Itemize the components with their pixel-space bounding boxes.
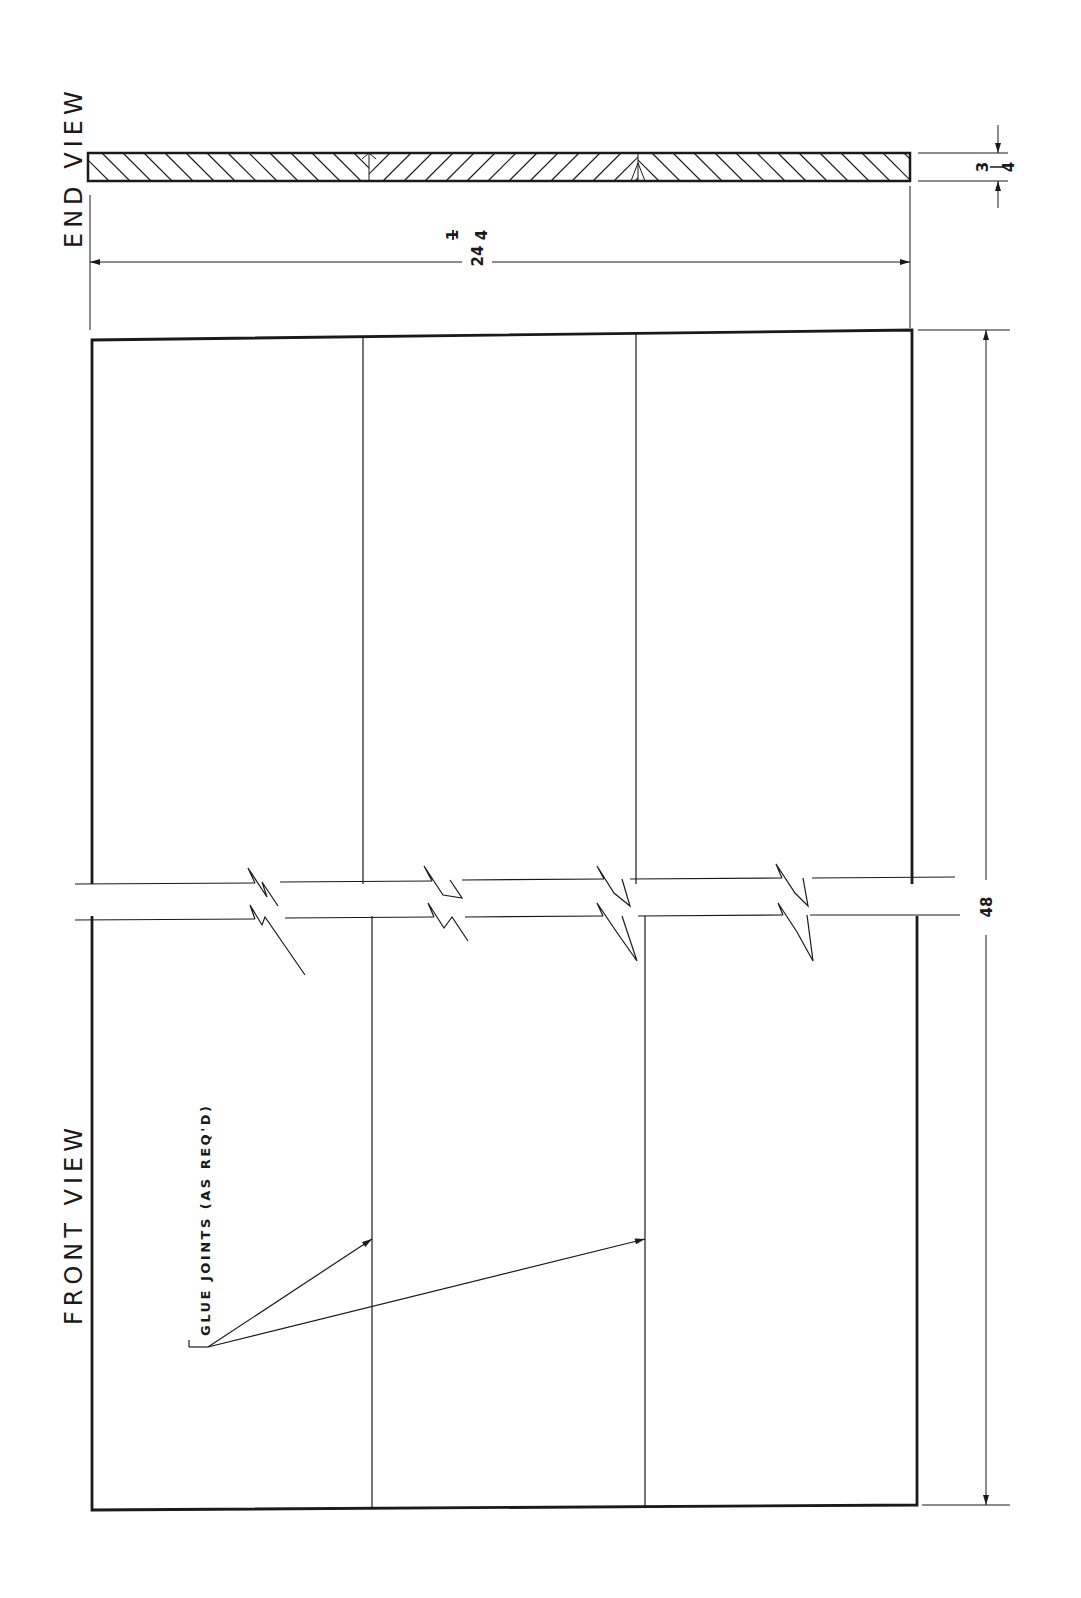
width-den: 4 bbox=[473, 230, 491, 240]
break-lines bbox=[75, 864, 960, 975]
width-num: 1 bbox=[444, 230, 462, 240]
technical-drawing: END VIEW 3 4 bbox=[0, 0, 1081, 1598]
glue-joints-note: GLUE JOINTS (AS REQ'D) bbox=[198, 1104, 213, 1336]
front-view: FRONT VIEW bbox=[60, 330, 1010, 1510]
end-view: END VIEW 3 4 bbox=[60, 86, 1018, 330]
front-view-title: FRONT VIEW bbox=[60, 1123, 88, 1325]
end-view-section bbox=[60, 153, 953, 181]
panel-outline bbox=[92, 330, 917, 1510]
thickness-den: 4 bbox=[1000, 162, 1018, 172]
width-whole: 24 bbox=[469, 246, 487, 267]
end-view-title: END VIEW bbox=[60, 86, 88, 248]
glue-joints-callout bbox=[189, 1239, 645, 1347]
width-dimension bbox=[90, 186, 910, 330]
length-dimension bbox=[918, 330, 1010, 1505]
thickness-num: 3 bbox=[974, 162, 992, 172]
length-dim-label: 48 bbox=[978, 897, 996, 918]
thickness-dimension bbox=[918, 125, 1008, 208]
